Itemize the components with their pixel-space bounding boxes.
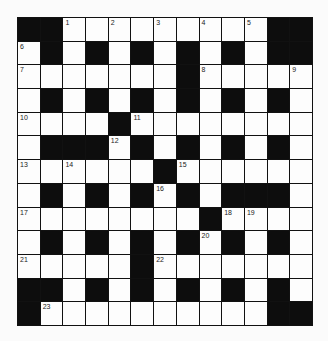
crossword-cell[interactable]: 7 [18,65,40,88]
crossword-cell[interactable]: 14 [63,160,85,183]
crossword-cell[interactable] [154,65,176,88]
crossword-cell[interactable]: 8 [200,65,222,88]
crossword-cell[interactable] [222,302,244,325]
crossword-cell[interactable] [222,255,244,278]
crossword-cell[interactable] [131,65,153,88]
crossword-cell[interactable] [290,136,312,159]
crossword-cell[interactable] [131,160,153,183]
crossword-cell[interactable] [109,208,131,231]
crossword-cell[interactable]: 3 [154,18,176,41]
crossword-cell[interactable] [200,42,222,65]
crossword-cell[interactable]: 21 [18,255,40,278]
crossword-cell[interactable] [154,89,176,112]
crossword-cell[interactable] [86,18,108,41]
crossword-cell[interactable] [154,42,176,65]
crossword-cell[interactable] [63,65,85,88]
crossword-cell[interactable] [154,302,176,325]
crossword-cell[interactable] [63,89,85,112]
crossword-cell[interactable] [245,42,267,65]
crossword-cell[interactable] [109,231,131,254]
crossword-cell[interactable] [200,279,222,302]
crossword-cell[interactable] [63,208,85,231]
crossword-cell[interactable] [86,208,108,231]
crossword-cell[interactable] [63,302,85,325]
crossword-cell[interactable] [63,255,85,278]
crossword-cell[interactable] [268,255,290,278]
crossword-cell[interactable] [109,302,131,325]
crossword-cell[interactable]: 13 [18,160,40,183]
crossword-cell[interactable] [154,208,176,231]
crossword-cell[interactable] [63,279,85,302]
crossword-cell[interactable]: 12 [109,136,131,159]
crossword-cell[interactable] [268,65,290,88]
crossword-cell[interactable] [245,160,267,183]
crossword-cell[interactable] [200,136,222,159]
crossword-cell[interactable]: 22 [154,255,176,278]
crossword-cell[interactable] [290,255,312,278]
crossword-cell[interactable] [41,113,63,136]
crossword-cell[interactable] [41,208,63,231]
crossword-cell[interactable] [63,184,85,207]
crossword-cell[interactable] [154,136,176,159]
crossword-cell[interactable]: 11 [131,113,153,136]
crossword-cell[interactable] [245,302,267,325]
crossword-cell[interactable] [109,279,131,302]
crossword-cell[interactable] [177,255,199,278]
crossword-cell[interactable] [86,302,108,325]
crossword-cell[interactable]: 18 [222,208,244,231]
crossword-cell[interactable] [131,18,153,41]
crossword-cell[interactable] [200,89,222,112]
crossword-cell[interactable] [63,113,85,136]
crossword-cell[interactable] [290,89,312,112]
crossword-cell[interactable] [290,279,312,302]
crossword-cell[interactable] [86,113,108,136]
crossword-cell[interactable]: 2 [109,18,131,41]
crossword-cell[interactable] [41,255,63,278]
crossword-cell[interactable]: 9 [290,65,312,88]
crossword-cell[interactable]: 15 [177,160,199,183]
crossword-cell[interactable] [109,89,131,112]
crossword-cell[interactable] [109,42,131,65]
crossword-cell[interactable] [177,302,199,325]
crossword-cell[interactable]: 23 [41,302,63,325]
crossword-cell[interactable]: 17 [18,208,40,231]
crossword-cell[interactable]: 5 [245,18,267,41]
crossword-cell[interactable] [154,231,176,254]
crossword-cell[interactable] [154,279,176,302]
crossword-cell[interactable] [177,18,199,41]
crossword-cell[interactable]: 4 [200,18,222,41]
crossword-cell[interactable] [290,113,312,136]
crossword-cell[interactable] [222,18,244,41]
crossword-cell[interactable] [222,65,244,88]
crossword-cell[interactable] [131,208,153,231]
crossword-cell[interactable] [131,302,153,325]
crossword-cell[interactable] [109,255,131,278]
crossword-cell[interactable] [222,113,244,136]
crossword-cell[interactable] [245,113,267,136]
crossword-cell[interactable] [290,231,312,254]
crossword-cell[interactable] [63,231,85,254]
crossword-cell[interactable] [41,160,63,183]
crossword-cell[interactable] [245,279,267,302]
crossword-cell[interactable] [290,184,312,207]
crossword-cell[interactable] [109,160,131,183]
crossword-cell[interactable] [200,113,222,136]
crossword-cell[interactable] [200,184,222,207]
crossword-cell[interactable]: 1 [63,18,85,41]
crossword-cell[interactable] [18,89,40,112]
crossword-cell[interactable] [41,65,63,88]
crossword-cell[interactable] [200,160,222,183]
crossword-cell[interactable]: 16 [154,184,176,207]
crossword-cell[interactable] [200,255,222,278]
crossword-cell[interactable] [63,42,85,65]
crossword-cell[interactable]: 20 [200,231,222,254]
crossword-cell[interactable] [154,113,176,136]
crossword-cell[interactable] [109,184,131,207]
crossword-cell[interactable] [109,65,131,88]
crossword-cell[interactable] [245,65,267,88]
crossword-cell[interactable] [290,160,312,183]
crossword-cell[interactable]: 19 [245,208,267,231]
crossword-cell[interactable] [268,208,290,231]
crossword-cell[interactable]: 10 [18,113,40,136]
crossword-cell[interactable] [268,113,290,136]
